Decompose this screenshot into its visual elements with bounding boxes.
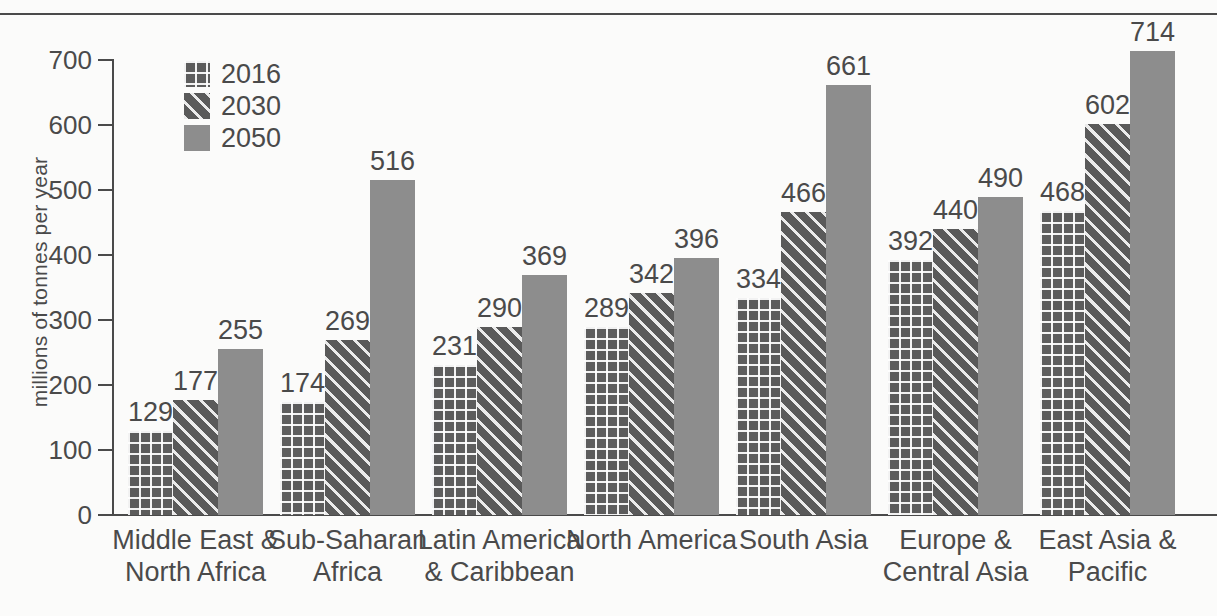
bar-2030[interactable]: 269 bbox=[325, 340, 370, 515]
legend-item[interactable]: 2030 bbox=[184, 90, 281, 122]
bar-2016[interactable]: 289 bbox=[584, 327, 629, 515]
bar-value-label: 290 bbox=[477, 295, 522, 322]
y-axis-tick bbox=[98, 124, 112, 126]
bar-fill bbox=[629, 293, 674, 515]
bar-value-label: 602 bbox=[1085, 92, 1130, 119]
bar-2050[interactable]: 490 bbox=[978, 197, 1023, 516]
legend-item[interactable]: 2016 bbox=[184, 58, 281, 90]
bar-fill bbox=[477, 327, 522, 516]
y-axis-tick bbox=[98, 189, 112, 191]
y-axis-tick bbox=[98, 254, 112, 256]
bar-value-label: 714 bbox=[1130, 19, 1175, 46]
bar-2030[interactable]: 177 bbox=[173, 400, 218, 515]
bar-fill bbox=[674, 258, 719, 515]
legend-label: 2050 bbox=[221, 125, 281, 152]
bar-value-label: 174 bbox=[280, 370, 325, 397]
y-axis-title: millions of tonnes per year bbox=[28, 72, 52, 492]
bar-fill bbox=[781, 212, 826, 515]
bar-value-label: 440 bbox=[933, 197, 978, 224]
legend-item[interactable]: 2050 bbox=[184, 122, 281, 154]
bar-2050[interactable]: 255 bbox=[218, 349, 263, 515]
bar-2016[interactable]: 129 bbox=[128, 431, 173, 515]
bar-value-label: 661 bbox=[826, 53, 871, 80]
y-axis-tick bbox=[98, 384, 112, 386]
y-axis-tick-label: 0 bbox=[0, 502, 92, 528]
bar-2030[interactable]: 342 bbox=[629, 293, 674, 515]
y-axis-tick-label: 700 bbox=[0, 47, 92, 73]
bar-2016[interactable]: 231 bbox=[432, 365, 477, 515]
bar-fill bbox=[826, 85, 871, 515]
bar-value-label: 289 bbox=[584, 295, 629, 322]
bar-value-label: 369 bbox=[522, 243, 567, 270]
legend-swatch-2050 bbox=[184, 125, 210, 151]
bar-2030[interactable]: 602 bbox=[1085, 124, 1130, 515]
bar-2030[interactable]: 290 bbox=[477, 327, 522, 516]
bar-2050[interactable]: 714 bbox=[1130, 51, 1175, 515]
bar-2050[interactable]: 516 bbox=[370, 180, 415, 515]
category-label: East Asia & Pacific bbox=[998, 525, 1217, 589]
bar-2016[interactable]: 174 bbox=[280, 402, 325, 515]
bar-fill bbox=[1130, 51, 1175, 515]
bar-fill bbox=[218, 349, 263, 515]
bar-2030[interactable]: 440 bbox=[933, 229, 978, 515]
bar-group: 231290369 bbox=[432, 60, 567, 515]
y-axis-tick bbox=[98, 514, 112, 516]
bar-value-label: 516 bbox=[370, 148, 415, 175]
legend-label: 2016 bbox=[221, 61, 281, 88]
bar-fill bbox=[736, 298, 781, 515]
bar-group: 174269516 bbox=[280, 60, 415, 515]
grouped-bar-chart: 7006005004003002001000 millions of tonne… bbox=[0, 0, 1217, 616]
bar-value-label: 396 bbox=[674, 226, 719, 253]
bar-2050[interactable]: 369 bbox=[522, 275, 567, 515]
bar-fill bbox=[584, 327, 629, 515]
bar-group: 392440490 bbox=[888, 60, 1023, 515]
bar-fill bbox=[173, 400, 218, 515]
chart-page: 7006005004003002001000 millions of tonne… bbox=[0, 0, 1217, 616]
bar-value-label: 129 bbox=[128, 399, 173, 426]
y-axis-tick bbox=[98, 59, 112, 61]
bar-fill bbox=[1085, 124, 1130, 515]
bar-fill bbox=[522, 275, 567, 515]
bar-value-label: 269 bbox=[325, 308, 370, 335]
chart-legend: 201620302050 bbox=[184, 58, 281, 154]
bar-2050[interactable]: 396 bbox=[674, 258, 719, 515]
bar-fill bbox=[325, 340, 370, 515]
y-axis-tick bbox=[98, 449, 112, 451]
bar-value-label: 255 bbox=[218, 317, 263, 344]
bar-value-label: 177 bbox=[173, 368, 218, 395]
bar-group: 334466661 bbox=[736, 60, 871, 515]
bar-value-label: 392 bbox=[888, 228, 933, 255]
bar-2016[interactable]: 468 bbox=[1040, 211, 1085, 515]
bar-fill bbox=[432, 365, 477, 515]
bar-fill bbox=[1040, 211, 1085, 515]
bar-fill bbox=[888, 260, 933, 515]
bar-group: 468602714 bbox=[1040, 60, 1175, 515]
bar-group: 289342396 bbox=[584, 60, 719, 515]
bar-2016[interactable]: 392 bbox=[888, 260, 933, 515]
bar-fill bbox=[280, 402, 325, 515]
bar-value-label: 334 bbox=[736, 266, 781, 293]
bar-2030[interactable]: 466 bbox=[781, 212, 826, 515]
legend-swatch-2030 bbox=[184, 93, 210, 119]
bar-value-label: 468 bbox=[1040, 179, 1085, 206]
bar-fill bbox=[933, 229, 978, 515]
bar-fill bbox=[978, 197, 1023, 516]
bar-2050[interactable]: 661 bbox=[826, 85, 871, 515]
bar-value-label: 342 bbox=[629, 261, 674, 288]
bar-value-label: 490 bbox=[978, 165, 1023, 192]
legend-label: 2030 bbox=[221, 93, 281, 120]
bar-fill bbox=[370, 180, 415, 515]
bar-2016[interactable]: 334 bbox=[736, 298, 781, 515]
legend-swatch-2016 bbox=[184, 61, 210, 87]
bar-value-label: 231 bbox=[432, 333, 477, 360]
bar-fill bbox=[128, 431, 173, 515]
y-axis-tick bbox=[98, 319, 112, 321]
bar-value-label: 466 bbox=[781, 180, 826, 207]
